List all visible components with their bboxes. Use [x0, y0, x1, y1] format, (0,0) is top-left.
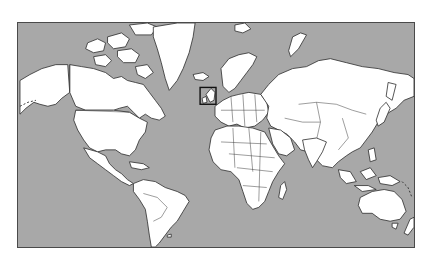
australia — [358, 190, 414, 236]
iceland — [193, 73, 209, 81]
asia — [261, 59, 414, 198]
world-map-svg — [18, 23, 414, 247]
world-map — [17, 22, 415, 248]
north-america — [20, 23, 195, 186]
south-america — [133, 180, 189, 247]
falkland-islands — [167, 234, 171, 237]
